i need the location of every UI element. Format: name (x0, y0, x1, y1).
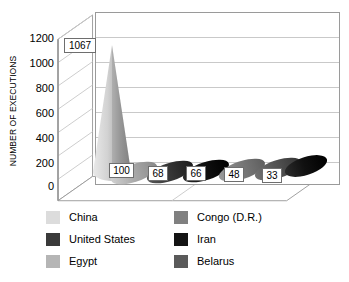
chart-legend: China Congo (D.R.) United States Iran Eg… (46, 206, 306, 272)
legend-swatch-congo (174, 211, 188, 224)
legend-item-united-states[interactable]: United States (46, 228, 174, 250)
legend-swatch-united-states (46, 233, 60, 246)
legend-label-egypt: Egypt (69, 255, 97, 267)
legend-swatch-china (46, 211, 60, 224)
legend-item-congo[interactable]: Congo (D.R.) (174, 206, 306, 228)
value-label-congo: 66 (186, 166, 206, 181)
value-label-china: 1067 (64, 38, 96, 53)
legend-swatch-belarus (174, 255, 188, 268)
legend-swatch-egypt (46, 255, 60, 268)
legend-label-belarus: Belarus (197, 255, 234, 267)
cone-china (93, 45, 131, 181)
value-label-egypt: 68 (148, 166, 168, 181)
value-label-iran: 48 (224, 167, 244, 182)
legend-label-iran: Iran (197, 233, 216, 245)
legend-item-egypt[interactable]: Egypt (46, 250, 174, 272)
legend-item-belarus[interactable]: Belarus (174, 250, 306, 272)
legend-swatch-iran (174, 233, 188, 246)
value-label-belarus: 33 (262, 168, 282, 183)
value-label-united-states: 100 (109, 163, 134, 178)
legend-label-congo: Congo (D.R.) (197, 211, 262, 223)
cone-belarus-tip (282, 151, 329, 182)
legend-item-iran[interactable]: Iran (174, 228, 306, 250)
legend-label-china: China (69, 211, 98, 223)
legend-item-china[interactable]: China (46, 206, 174, 228)
legend-label-united-states: United States (69, 233, 135, 245)
chart-container: NUMBER OF EXECUTIONS 1200 1000 800 600 4… (0, 0, 349, 282)
